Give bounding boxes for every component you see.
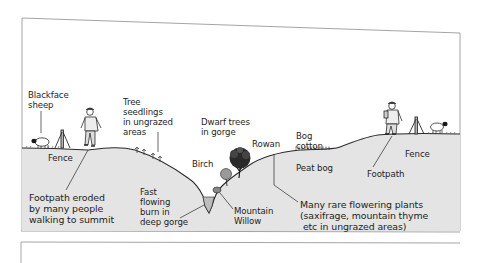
label-tree-seedlings: Tree seedlings in ungrazed areas bbox=[123, 97, 173, 137]
label-fence-left: Fence bbox=[48, 153, 73, 163]
label-fence-right: Fence bbox=[405, 149, 430, 159]
fence-left-icon bbox=[55, 130, 70, 148]
label-dwarf-trees: Dwarf trees in gorge bbox=[201, 117, 250, 137]
fence-right-icon bbox=[409, 117, 424, 134]
label-birch: Birch bbox=[192, 159, 213, 169]
label-blackface-sheep: Blackface sheep bbox=[28, 90, 69, 110]
walker-right-icon bbox=[384, 102, 402, 134]
label-rare-flowering-plants: Many rare flowering plants (saxifrage, m… bbox=[300, 199, 428, 232]
label-fast-burn: Fast flowing burn in deep gorge bbox=[140, 187, 188, 227]
label-footpath-eroded: Footpath eroded by many people walking t… bbox=[29, 192, 114, 225]
label-footpath-right: Footpath bbox=[367, 169, 404, 179]
label-mountain-willow: Mountain Willow bbox=[234, 206, 273, 226]
label-bog-cotton: Bog cotton bbox=[296, 131, 323, 151]
walker-left-icon bbox=[81, 108, 101, 146]
mountain-willow-icon bbox=[213, 187, 221, 193]
sheep-left-icon bbox=[31, 138, 49, 149]
label-rowan: Rowan bbox=[252, 139, 280, 149]
label-peat-bog: Peat bog bbox=[296, 163, 333, 173]
